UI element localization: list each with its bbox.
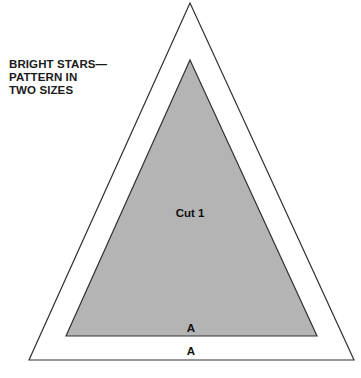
outer-base-label: A <box>187 345 195 357</box>
pattern-title: BRIGHT STARS— PATTERN IN TWO SIZES <box>9 58 107 97</box>
triangle-pattern-diagram <box>0 0 361 378</box>
title-line-1: BRIGHT STARS— <box>9 58 107 71</box>
title-line-2: PATTERN IN <box>9 71 107 84</box>
cut-instruction-label: Cut 1 <box>176 207 205 219</box>
title-line-3: TWO SIZES <box>9 84 107 97</box>
inner-base-label: A <box>187 322 195 334</box>
pattern-sheet: BRIGHT STARS— PATTERN IN TWO SIZES Cut 1… <box>0 0 361 378</box>
